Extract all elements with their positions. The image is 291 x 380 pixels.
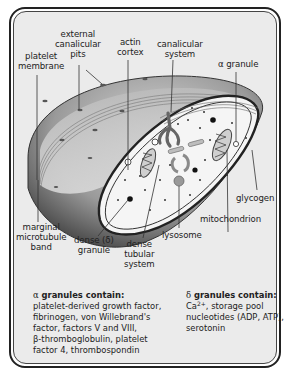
alpha-granule-contents: α granules contain: platelet-derived gro… <box>33 290 161 356</box>
alpha-granule-heading: α granules contain: <box>33 290 161 301</box>
label-mitochondrion: mitochondrion <box>200 214 261 224</box>
label-canalicular-system: canalicular system <box>157 39 203 59</box>
label-marginal-microtubule-band: marginal microtubule band <box>16 222 66 252</box>
label-actin-cortex: actin cortex <box>117 37 144 57</box>
label-dense-tubular-system: dense tubular system <box>124 239 154 269</box>
delta-line-calcium: Ca2+, storage pool <box>186 301 284 312</box>
label-dense-granule: dense (δ) granule <box>74 235 114 255</box>
label-lysosome: lysosome <box>162 230 202 240</box>
label-external-canalicular-pits: external canalicular pits <box>55 29 101 59</box>
delta-granule-contents: δ granules contain: Ca2+, storage pool n… <box>186 290 284 334</box>
label-glycogen: glycogen <box>236 193 274 203</box>
label-alpha-granule: α granule <box>218 59 258 69</box>
lysosome-icon <box>174 176 184 186</box>
